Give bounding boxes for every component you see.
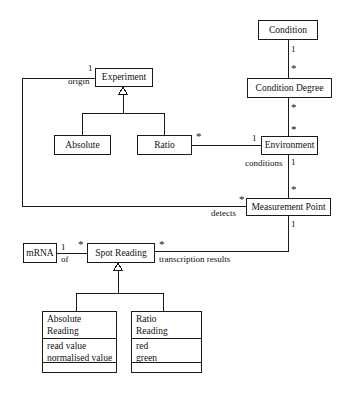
gen-experiment-triangle xyxy=(119,87,127,94)
class-mrna-label: mRNA xyxy=(26,248,53,259)
multiplicity-mrna: 1 xyxy=(61,243,66,252)
assoc-spot-reading-measurement-point xyxy=(155,216,288,251)
class-absolute-reading-name: Absolute Reading xyxy=(43,312,116,339)
class-ratio-reading-operations xyxy=(132,363,201,372)
class-ratio-reading-attributes: red green xyxy=(132,339,201,363)
class-ratio-reading-name-line1: Ratio xyxy=(136,314,201,326)
gen-spot-reading-triangle xyxy=(114,263,122,270)
class-absolute-reading-name-line1: Absolute xyxy=(47,314,116,326)
class-condition[interactable]: Condition xyxy=(258,20,318,40)
role-label-origin: origin xyxy=(68,77,90,86)
multiplicity-condition-to-degree-target: * xyxy=(291,63,297,74)
class-environment-label: Environment xyxy=(265,140,315,151)
class-experiment[interactable]: Experiment xyxy=(95,68,153,87)
class-ratio[interactable]: Ratio xyxy=(137,135,192,155)
multiplicity-degree-to-environment-target: * xyxy=(291,124,297,135)
uml-class-diagram: Condition Condition Degree Environment M… xyxy=(0,0,349,395)
multiplicity-ratio-to-environment-target: 1 xyxy=(252,134,257,143)
class-spot-reading[interactable]: Spot Reading xyxy=(87,243,155,263)
multiplicity-spot-reading-right: * xyxy=(159,239,165,250)
class-measurement-point-label: Measurement Point xyxy=(251,202,325,213)
class-measurement-point[interactable]: Measurement Point xyxy=(246,198,331,216)
class-absolute-reading-attr-1: read value xyxy=(47,341,116,353)
multiplicity-condition-to-degree-source: 1 xyxy=(291,45,296,54)
class-environment[interactable]: Environment xyxy=(261,136,318,155)
multiplicity-degree-to-environment-source: * xyxy=(291,102,297,113)
role-label-detects: detects xyxy=(211,209,236,218)
multiplicity-spot-reading-left: * xyxy=(78,239,84,250)
role-label-of: of xyxy=(61,255,69,264)
class-mrna[interactable]: mRNA xyxy=(23,243,57,263)
multiplicity-environment-to-mp-source: 1 xyxy=(291,158,296,167)
class-ratio-label: Ratio xyxy=(154,140,175,151)
multiplicity-detects: * xyxy=(239,194,245,205)
class-absolute[interactable]: Absolute xyxy=(54,135,111,155)
multiplicity-experiment-origin: 1 xyxy=(88,64,93,73)
class-absolute-reading-operations xyxy=(43,363,116,372)
class-condition-label: Condition xyxy=(269,25,307,36)
class-absolute-reading-name-line2: Reading xyxy=(47,326,116,338)
class-absolute-label: Absolute xyxy=(65,140,99,151)
class-ratio-reading-name-line2: Reading xyxy=(136,326,201,338)
multiplicity-ratio-to-environment-source: * xyxy=(196,131,202,142)
role-label-conditions: conditions xyxy=(245,159,283,168)
role-label-transcription-results: transcription results xyxy=(159,255,230,264)
class-condition-degree[interactable]: Condition Degree xyxy=(247,78,332,98)
class-ratio-reading[interactable]: Ratio Reading red green xyxy=(131,311,202,373)
multiplicity-mp-to-spot-source: 1 xyxy=(291,220,296,229)
class-absolute-reading-attributes: read value normalised value xyxy=(43,339,116,363)
multiplicity-environment-to-mp-target: * xyxy=(291,184,297,195)
class-absolute-reading[interactable]: Absolute Reading read value normalised v… xyxy=(42,311,117,373)
class-spot-reading-label: Spot Reading xyxy=(95,248,146,259)
class-condition-degree-label: Condition Degree xyxy=(256,83,324,94)
class-ratio-reading-name: Ratio Reading xyxy=(132,312,201,339)
class-ratio-reading-attr-1: red xyxy=(136,341,201,353)
class-experiment-label: Experiment xyxy=(102,72,146,83)
